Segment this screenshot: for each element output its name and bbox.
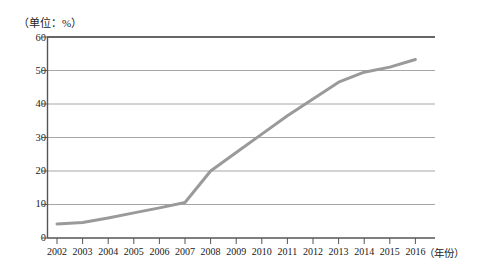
data-series-line (57, 59, 415, 223)
x-axis-ticks (57, 238, 415, 244)
gridlines (47, 71, 435, 205)
y-axis-ticks (42, 37, 47, 238)
plot-area (0, 0, 480, 268)
line-chart: （单位：%） 60 50 40 30 20 10 0 2002 2003 200… (0, 0, 480, 268)
